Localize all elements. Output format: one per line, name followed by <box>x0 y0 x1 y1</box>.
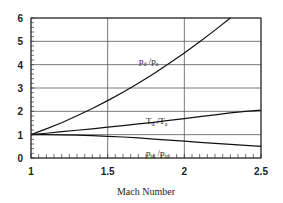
y-tick-label: 2 <box>17 106 23 117</box>
y-tick-label: 3 <box>17 83 23 94</box>
x-axis-title: Mach Number <box>117 186 176 197</box>
series-label: Td /Ta <box>146 116 168 127</box>
x-tick-label: 2.5 <box>254 166 268 177</box>
chart: 012345611.522.5pd /paTd /Taptd /ptaMach … <box>0 0 283 203</box>
series-label: pd /pa <box>139 56 159 67</box>
y-tick-label: 1 <box>17 130 23 141</box>
series-label: ptd /pta <box>146 148 169 159</box>
series-line-2 <box>31 135 261 147</box>
x-tick-label: 2 <box>182 166 188 177</box>
y-tick-label: 4 <box>17 60 23 71</box>
y-tick-label: 0 <box>17 153 23 164</box>
x-tick-label: 1 <box>28 166 34 177</box>
y-tick-label: 6 <box>17 13 23 24</box>
x-tick-label: 1.5 <box>101 166 115 177</box>
y-tick-label: 5 <box>17 36 23 47</box>
